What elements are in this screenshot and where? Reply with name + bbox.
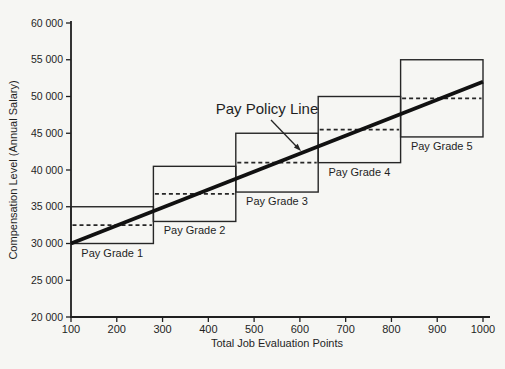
- x-tick-label: 1000: [471, 323, 495, 335]
- x-tick-label: 200: [108, 323, 126, 335]
- pay-grade-label: Pay Grade 4: [329, 166, 391, 178]
- x-tick-label: 100: [62, 323, 80, 335]
- x-tick-label: 600: [291, 323, 309, 335]
- y-tick-label: 25 000: [31, 274, 63, 286]
- x-tick-label: 300: [153, 323, 171, 335]
- y-tick-label: 35 000: [31, 200, 63, 212]
- x-tick-label: 400: [199, 323, 217, 335]
- pay-grade-label: Pay Grade 5: [411, 140, 473, 152]
- y-tick-label: 50 000: [31, 90, 63, 102]
- y-tick-label: 20 000: [31, 311, 63, 323]
- pay-policy-line-label: Pay Policy Line: [216, 100, 319, 117]
- y-tick-label: 45 000: [31, 127, 63, 139]
- chart-background: [0, 0, 505, 369]
- x-tick-label: 800: [382, 323, 400, 335]
- pay-grade-label: Pay Grade 2: [164, 224, 226, 236]
- y-tick-label: 30 000: [31, 237, 63, 249]
- x-tick-label: 700: [336, 323, 354, 335]
- x-tick-label: 500: [245, 323, 263, 335]
- x-axis-title: Total Job Evaluation Points: [211, 337, 344, 349]
- pay-structure-chart: 20 00025 00030 00035 00040 00045 00050 0…: [0, 0, 505, 369]
- y-axis-title: Compensation Level (Annual Salary): [7, 80, 19, 259]
- x-tick-label: 900: [428, 323, 446, 335]
- y-tick-label: 60 000: [31, 17, 63, 29]
- pay-grade-label: Pay Grade 1: [81, 247, 143, 259]
- y-tick-label: 55 000: [31, 53, 63, 65]
- y-tick-label: 40 000: [31, 164, 63, 176]
- pay-grade-label: Pay Grade 3: [246, 195, 308, 207]
- chart-svg: 20 00025 00030 00035 00040 00045 00050 0…: [0, 0, 505, 369]
